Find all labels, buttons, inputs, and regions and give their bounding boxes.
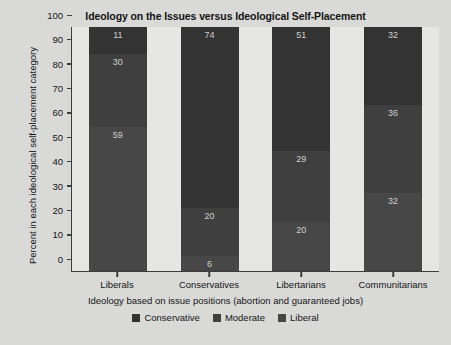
y-axis-tick-label: 20 (39, 205, 63, 217)
bar-segment-value: 29 (296, 151, 306, 164)
bar-segment-liberal[interactable]: 6 (181, 256, 239, 271)
bar-segment-value: 11 (113, 27, 122, 40)
bar-segment-moderate[interactable]: 36 (364, 105, 422, 193)
bar-group: 11305974206512920323632 (72, 27, 439, 271)
bar-segment-liberal[interactable]: 20 (272, 222, 330, 271)
x-axis-tick: Conservatives (163, 272, 255, 296)
y-axis-tick: 80 (39, 58, 72, 70)
bar-slot: 113059 (72, 27, 164, 271)
y-axis-tick: 70 (39, 82, 72, 94)
legend-swatch-icon (132, 314, 140, 322)
bar-segment-moderate[interactable]: 20 (181, 208, 239, 257)
y-axis-tick: 30 (39, 180, 72, 192)
x-axis-ticks: LiberalsConservativesLibertariansCommuni… (71, 272, 439, 296)
bar-segment-value: 59 (113, 127, 123, 140)
x-axis-tick: Libertarians (255, 272, 347, 296)
x-axis-tick: Liberals (71, 272, 163, 296)
legend-item-moderate[interactable]: Moderate (213, 313, 265, 323)
x-axis-title: Ideology based on issue positions (abort… (0, 295, 451, 306)
y-axis-tick: 10 (39, 229, 72, 241)
x-axis-tick-mark (208, 272, 210, 277)
bar-segment-value: 51 (296, 27, 306, 40)
x-axis-tick-mark (392, 272, 394, 277)
bar-segment-value: 6 (207, 256, 212, 269)
bar-segment-value: 74 (205, 27, 215, 40)
bar-segment-liberal[interactable]: 32 (364, 193, 422, 271)
bar-slot: 74206 (164, 27, 256, 271)
stacked-bar[interactable]: 113059 (89, 27, 147, 271)
legend-item-liberal[interactable]: Liberal (278, 313, 319, 323)
y-axis-tick-label: 50 (39, 132, 63, 144)
y-axis-tick: 0 (39, 253, 72, 265)
bar-segment-value: 32 (388, 27, 398, 40)
y-axis-tick-label: 40 (39, 156, 63, 168)
y-axis-tick: 40 (39, 155, 72, 167)
y-axis-tick: 90 (39, 33, 72, 45)
x-axis-tick-mark (300, 272, 302, 277)
bar-segment-moderate[interactable]: 30 (89, 54, 147, 127)
stacked-bar[interactable]: 512920 (272, 27, 330, 271)
bar-slot: 323632 (347, 27, 439, 271)
chart-legend: ConservativeModerateLiberal (0, 313, 451, 323)
bar-segment-value: 20 (296, 222, 306, 235)
bar-segment-conservative[interactable]: 32 (364, 27, 422, 105)
x-axis-tick-label: Liberals (71, 279, 163, 290)
y-axis-tick: 100 (39, 9, 72, 21)
chart-figure: Ideology on the Issues versus Ideologica… (0, 0, 451, 345)
y-axis-tick-mark (67, 15, 72, 17)
bar-segment-value: 36 (388, 105, 398, 118)
stacked-bar[interactable]: 74206 (181, 27, 239, 271)
bar-segment-conservative[interactable]: 11 (89, 27, 147, 54)
legend-swatch-icon (213, 314, 221, 322)
y-axis-title: Percent in each ideological self-placeme… (27, 36, 38, 276)
x-axis-tick: Communitarians (347, 272, 439, 296)
stacked-bar[interactable]: 323632 (364, 27, 422, 271)
y-axis-tick-label: 100 (39, 10, 63, 22)
y-axis-tick-label: 0 (39, 254, 63, 266)
legend-swatch-icon (278, 314, 286, 322)
x-axis-tick-label: Conservatives (163, 279, 255, 290)
bar-slot: 512920 (256, 27, 348, 271)
y-axis-tick-label: 90 (39, 34, 63, 46)
bar-segment-value: 20 (205, 208, 215, 221)
y-axis-tick: 20 (39, 204, 72, 216)
bar-segment-moderate[interactable]: 29 (272, 151, 330, 222)
x-axis-tick-label: Communitarians (347, 279, 439, 290)
y-axis-tick-label: 10 (39, 229, 63, 241)
x-axis-tick-label: Libertarians (255, 279, 347, 290)
bar-segment-liberal[interactable]: 59 (89, 127, 147, 271)
y-axis-tick: 60 (39, 107, 72, 119)
plot-area: 1009080706050403020100 11305974206512920… (71, 27, 439, 272)
legend-label: Liberal (290, 313, 319, 323)
bar-segment-conservative[interactable]: 74 (181, 27, 239, 208)
y-axis-tick-label: 30 (39, 181, 63, 193)
y-axis-tick: 50 (39, 131, 72, 143)
y-axis-tick-label: 60 (39, 107, 63, 119)
legend-item-conservative[interactable]: Conservative (132, 313, 199, 323)
y-axis-tick-label: 70 (39, 83, 63, 95)
x-axis-tick-mark (116, 272, 118, 277)
bar-segment-value: 30 (113, 54, 123, 67)
bar-segment-value: 32 (388, 193, 398, 206)
bar-segment-conservative[interactable]: 51 (272, 27, 330, 151)
y-axis-tick-label: 80 (39, 59, 63, 71)
legend-label: Conservative (144, 313, 199, 323)
legend-label: Moderate (225, 313, 265, 323)
